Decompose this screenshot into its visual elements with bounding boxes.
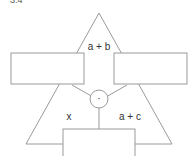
right-box bbox=[114, 53, 187, 84]
center-node-dot: · bbox=[97, 93, 100, 104]
left-box bbox=[11, 53, 84, 84]
label-left: x bbox=[67, 111, 72, 122]
diagram-canvas: 3.4 · a + b x a + c bbox=[0, 0, 194, 156]
label-top: a + b bbox=[88, 41, 111, 52]
bottom-box bbox=[63, 129, 135, 156]
label-right: a + c bbox=[119, 111, 141, 122]
figure-number: 3.4 bbox=[10, 0, 23, 5]
